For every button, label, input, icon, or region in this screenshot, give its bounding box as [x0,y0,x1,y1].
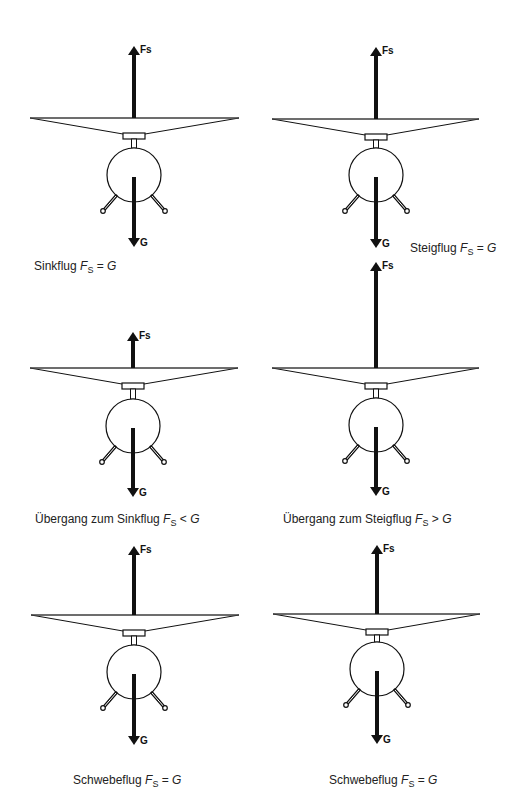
caption-name: Steigflug [410,241,460,255]
rotor-disc [30,118,239,134]
rotor-hub [123,630,145,636]
landing-skid-inner [394,446,407,461]
rotor-mast [375,635,380,642]
caption-name: Übergang zum Steigflug [283,512,415,526]
landing-skid-inner [152,693,165,708]
lift-arrow-head-icon [128,546,140,555]
skid-foot [343,459,348,464]
caption-rhs: G [190,512,199,526]
rotor-hub [366,629,388,635]
caption-relation: = [414,773,428,787]
panel-caption: Sinkflug FS = G [34,259,116,274]
skid-foot [100,460,105,465]
rotor-disc [273,614,480,630]
lift-force-label: Fs [139,331,151,341]
caption-name: Übergang zum Sinkflug [35,512,163,526]
landing-skid-inner [346,690,359,705]
rotor-disc [30,368,238,384]
skid-foot [406,703,411,708]
weight-arrow-head-icon [128,736,140,745]
weight-force-label: G [140,736,148,746]
weight-force-label: G [140,238,148,248]
rotor-mast [374,140,379,148]
caption-rhs: G [428,773,437,787]
skid-foot [344,703,349,708]
skid-foot [343,209,348,214]
helicopter-panel-uebergang-steigflug [272,262,479,496]
lift-arrow-head-icon [371,545,383,554]
rotor-hub [365,134,387,140]
caption-relation: = [93,259,107,273]
skid-foot [162,460,167,465]
caption-subscript: S [467,247,473,257]
panel-caption: Schwebeflug FS = G [73,773,181,788]
helicopter-panel-uebergang-sinkflug [30,332,238,497]
weight-arrow-head-icon [128,238,140,247]
caption-rhs: G [107,259,116,273]
lift-arrow-head-icon [127,332,139,341]
rotor-disc [272,368,479,384]
caption-subscript: S [87,265,93,275]
skid-foot [101,706,106,711]
caption-rhs: G [172,773,181,787]
caption-subscript: S [152,779,158,789]
lift-force-label: Fs [382,261,394,271]
weight-arrow-head-icon [370,487,382,496]
caption-subscript: S [422,518,428,528]
rotor-hub [365,383,387,389]
landing-skid-inner [103,196,116,211]
rotor-disc [272,119,479,135]
landing-skid-inner [345,196,358,211]
panel-caption: Steigflug FS = G [410,241,496,256]
landing-skid-inner [395,690,408,705]
rotor-mast [374,389,379,398]
rotor-hub [123,133,145,139]
caption-relation: < [176,512,190,526]
caption-relation: > [428,512,442,526]
caption-name: Schwebeflug [329,773,401,787]
weight-arrow-head-icon [370,239,382,248]
caption-subscript: S [408,779,414,789]
landing-skid-inner [345,446,358,461]
caption-relation: = [473,241,487,255]
rotor-mast [132,636,137,645]
skid-foot [163,706,168,711]
rotor-mast [132,139,137,148]
helicopter-panel-sinkflug [30,46,239,247]
lift-arrow-head-icon [370,262,382,271]
rotor-hub [122,383,144,389]
rotor-disc [31,615,239,631]
lift-force-label: Fs [140,545,152,555]
weight-arrow-head-icon [127,488,139,497]
skid-foot [405,209,410,214]
helicopter-panel-steigflug [272,47,479,248]
weight-arrow-head-icon [371,735,383,744]
caption-subscript: S [170,518,176,528]
landing-skid-inner [102,447,115,462]
skid-foot [405,459,410,464]
landing-skid-inner [394,196,407,211]
landing-skid-inner [152,196,165,211]
lift-force-label: Fs [383,544,395,554]
lift-force-label: Fs [382,46,394,56]
lift-arrow-head-icon [128,46,140,55]
weight-force-label: G [382,239,390,249]
panel-caption: Schwebeflug FS = G [329,773,437,788]
weight-force-label: G [139,488,147,498]
caption-rhs: G [487,241,496,255]
lift-force-label: Fs [140,45,152,55]
caption-name: Sinkflug [34,259,80,273]
rotor-mast [131,389,136,399]
caption-rhs: G [442,512,451,526]
weight-force-label: G [382,487,390,497]
lift-arrow-head-icon [370,47,382,56]
landing-skid-inner [151,447,164,462]
skid-foot [163,209,168,214]
caption-relation: = [158,773,172,787]
helicopter-panel-schwebeflug-1 [31,546,239,745]
panel-caption: Übergang zum Sinkflug FS < G [35,512,199,527]
helicopter-panel-schwebeflug-2 [273,545,480,744]
weight-force-label: G [383,735,391,745]
panel-caption: Übergang zum Steigflug FS > G [283,512,451,527]
landing-skid-inner [103,693,116,708]
